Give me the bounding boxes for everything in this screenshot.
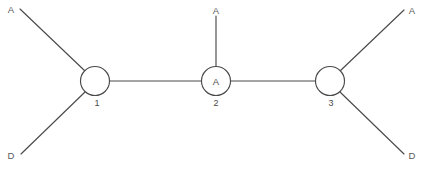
edge-node3-to-top-right-A bbox=[340, 10, 404, 71]
node-1-circle[interactable] bbox=[81, 67, 110, 96]
network-diagram-canvas: 1A23 ADAAD bbox=[0, 0, 424, 170]
node-2-number-label: 2 bbox=[213, 98, 218, 108]
edge-node1-to-top-left-A bbox=[20, 9, 85, 71]
terminal-bottom-left-label: D bbox=[8, 150, 15, 161]
terminal-top-right-label: A bbox=[409, 5, 416, 16]
node-2-inner-label: A bbox=[213, 76, 220, 87]
nodes-group: 1A23 bbox=[81, 67, 345, 109]
node-1-number-label: 1 bbox=[94, 98, 99, 108]
terminal-top-left-label: A bbox=[8, 4, 15, 15]
edge-node1-to-bottom-left-D bbox=[21, 92, 85, 154]
node-3-number-label: 3 bbox=[328, 98, 333, 108]
network-diagram-svg: 1A23 ADAAD bbox=[0, 0, 424, 170]
terminal-top-center-label: A bbox=[213, 5, 220, 16]
edge-node3-to-bottom-right-D bbox=[340, 92, 404, 154]
node-3-circle[interactable] bbox=[316, 67, 345, 96]
terminal-bottom-right-label: D bbox=[409, 150, 416, 161]
